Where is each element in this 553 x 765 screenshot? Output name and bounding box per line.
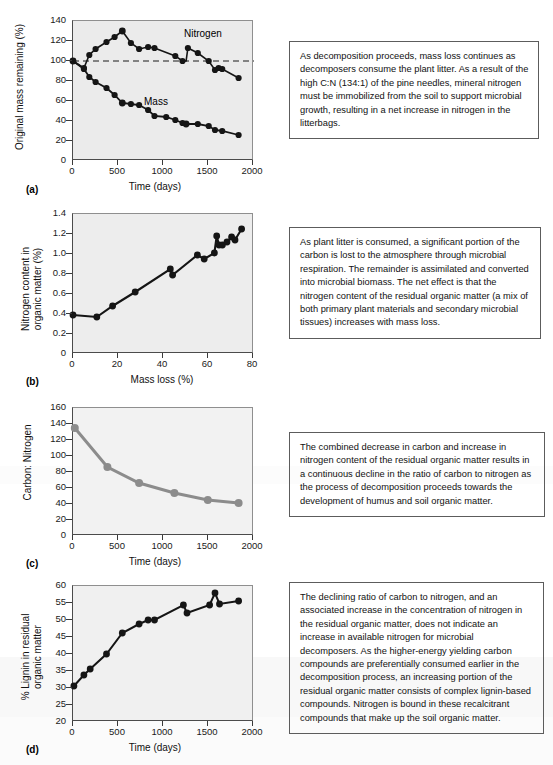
panel-c-data-points — [71, 424, 243, 507]
panel-d-ytick: 50 — [38, 614, 66, 624]
panel-a-x-axis-title: Time (days) — [110, 181, 200, 192]
panel-a-ytick: 60 — [38, 95, 66, 105]
panel-a: Original mass remaining (%) — [0, 0, 278, 205]
panel-d-series-svg — [73, 586, 254, 722]
panel-c-ytick: 140 — [38, 418, 66, 428]
panel-d-ytick: 25 — [38, 699, 66, 709]
panel-c-ytick: 20 — [38, 514, 66, 524]
panel-b-ytick: 0 — [36, 348, 66, 358]
panel-a-ytick: 100 — [38, 55, 66, 65]
panel-d-letter: (d) — [26, 744, 39, 755]
panel-d-ytick: 45 — [38, 631, 66, 641]
panel-a-xtick: 1500 — [195, 166, 219, 176]
panel-c-ytick: 160 — [38, 402, 66, 412]
panel-b-series-svg — [73, 214, 254, 354]
panel-b-ytick: 0.8 — [36, 268, 66, 278]
figure-litter-decomposition: Original mass remaining (%) — [0, 0, 553, 765]
panel-c-letter: (c) — [26, 558, 38, 569]
panel-c-xtick: 500 — [105, 541, 129, 551]
panel-d-x-axis-title: Time (days) — [110, 742, 200, 753]
panel-a-xtick: 0 — [60, 166, 84, 176]
panel-b: Nitrogen content in organic matter (%) 1… — [0, 205, 278, 395]
panel-a-ytick: 120 — [38, 35, 66, 45]
panel-d-data-points — [71, 590, 243, 690]
panel-a-plot-area — [72, 20, 253, 160]
panel-c-ytick: 120 — [38, 434, 66, 444]
panel-d-xtick: 2000 — [240, 727, 264, 737]
panel-a-y-axis-title: Original mass remaining (%) — [14, 12, 25, 162]
panel-a-ytick: 20 — [38, 135, 66, 145]
panel-a-ytick: 80 — [38, 75, 66, 85]
panel-b-nitrogen-content-line — [73, 229, 242, 317]
panel-c-xtick: 2000 — [240, 541, 264, 551]
panel-d-ytick: 60 — [38, 580, 66, 590]
panel-b-xtick: 60 — [195, 359, 219, 369]
panel-d-ytick: 40 — [38, 648, 66, 658]
annotation-note-d: The declining ratio of carbon to nitroge… — [289, 582, 544, 734]
panel-c-x-axis-title: Time (days) — [110, 556, 200, 567]
panel-a-ytick: 140 — [38, 15, 66, 25]
panel-c-ytick: 100 — [38, 450, 66, 460]
panel-b-ytick: 1.2 — [36, 228, 66, 238]
panel-c-xtick: 1500 — [195, 541, 219, 551]
panel-b-ytick: 0.2 — [36, 328, 66, 338]
panel-b-plot-area — [72, 213, 253, 353]
panel-c-ytick: 60 — [38, 482, 66, 492]
panel-d-ytick: 20 — [38, 716, 66, 726]
panel-b-xtick: 20 — [105, 359, 129, 369]
panel-c-plot-area — [72, 407, 253, 535]
panel-b-ytick: 0.4 — [36, 308, 66, 318]
panel-b-xtick: 40 — [150, 359, 174, 369]
panel-a-label-nitrogen: Nitrogen — [184, 28, 222, 39]
panel-d-lignin-line — [74, 593, 239, 686]
panel-d-xtick: 0 — [60, 727, 84, 737]
panel-d-plot-area — [72, 585, 253, 721]
panel-b-xtick: 0 — [60, 359, 84, 369]
panel-c-ytick: 0 — [38, 530, 66, 540]
panel-d: % Lignin in residual organic matter 60 5… — [0, 577, 278, 765]
panel-a-letter: (a) — [26, 184, 38, 195]
panel-a-ytick: 0 — [38, 155, 66, 165]
panel-a-xtick: 2000 — [240, 166, 264, 176]
panel-c-xtick: 0 — [60, 541, 84, 551]
panel-d-y-axis-title-line1: % Lignin in residual — [20, 614, 31, 701]
panel-b-ytick: 1.4 — [36, 208, 66, 218]
panel-d-xtick: 500 — [105, 727, 129, 737]
panel-a-label-mass: Mass — [144, 96, 168, 107]
panel-b-y-axis-title-line1: Nitrogen content in — [20, 247, 31, 331]
annotation-note-a: As decomposition proceeds, mass loss con… — [289, 41, 539, 139]
panel-d-ytick: 30 — [38, 682, 66, 692]
panel-b-letter: (b) — [26, 376, 39, 387]
panel-c-ytick: 80 — [38, 466, 66, 476]
panel-c: Carbon: Nitrogen 160 140 120 100 80 60 4… — [0, 395, 278, 577]
panel-b-ytick: 0.6 — [36, 288, 66, 298]
panel-d-xtick: 1000 — [150, 727, 174, 737]
panel-b-x-axis-title: Mass loss (%) — [117, 374, 207, 385]
panel-c-y-axis-title: Carbon: Nitrogen — [22, 405, 33, 520]
panel-a-xtick: 500 — [105, 166, 129, 176]
panel-b-ytick: 1.0 — [36, 248, 66, 258]
panel-c-ytick: 40 — [38, 498, 66, 508]
panel-c-cn-ratio-line — [75, 428, 239, 503]
panel-d-xtick: 1500 — [195, 727, 219, 737]
panel-d-ytick: 35 — [38, 665, 66, 675]
panel-a-xtick: 1000 — [150, 166, 174, 176]
panel-a-ytick: 40 — [38, 115, 66, 125]
panel-c-xtick: 1000 — [150, 541, 174, 551]
panel-d-ytick: 55 — [38, 597, 66, 607]
annotation-note-c: The combined decrease in carbon and incr… — [289, 432, 545, 517]
panel-c-series-svg — [73, 408, 254, 536]
annotation-note-b: As plant litter is consumed, a significa… — [289, 227, 541, 339]
panel-b-xtick: 80 — [240, 359, 264, 369]
panel-a-series-svg — [73, 21, 254, 161]
